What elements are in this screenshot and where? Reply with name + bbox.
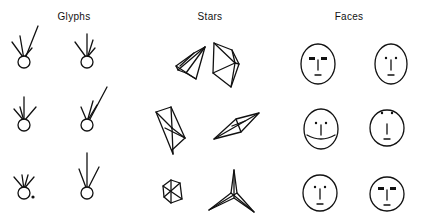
glyph-6 bbox=[79, 153, 99, 199]
star-plot-6 bbox=[209, 170, 254, 212]
star-plot-4 bbox=[214, 113, 259, 139]
glyph-1 bbox=[12, 26, 38, 68]
faces-panel bbox=[301, 44, 407, 211]
face-1 bbox=[301, 44, 335, 84]
star-plot-1 bbox=[176, 47, 205, 79]
face-3 bbox=[304, 109, 338, 149]
star-plot-3 bbox=[156, 107, 185, 154]
glyph-5 bbox=[14, 175, 35, 199]
glyph-2 bbox=[75, 34, 95, 68]
star-plot-2 bbox=[213, 43, 239, 87]
figure-canvas bbox=[0, 0, 421, 223]
glyph-4 bbox=[81, 87, 107, 131]
face-4 bbox=[370, 110, 404, 146]
face-6 bbox=[370, 177, 404, 211]
face-2 bbox=[375, 44, 407, 84]
stars-panel bbox=[156, 43, 259, 212]
glyph-3 bbox=[14, 97, 36, 131]
face-5 bbox=[303, 175, 337, 211]
star-plot-5 bbox=[163, 180, 182, 203]
glyphs-panel bbox=[12, 26, 107, 199]
